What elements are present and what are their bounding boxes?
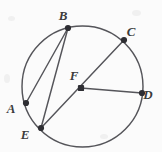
point-label-d: D [142, 87, 153, 102]
vertex-dot-f [78, 85, 84, 91]
point-label-c: C [127, 24, 136, 39]
geometry-diagram: A B C D E F [0, 0, 162, 152]
point-label-f: F [69, 68, 79, 83]
vertex-dot-b [65, 25, 71, 31]
diagram-canvas: A B C D E F [0, 0, 162, 152]
point-label-a: A [6, 101, 16, 116]
vertex-dot-a [23, 100, 29, 106]
radius-fd [81, 88, 142, 93]
chord-ab [26, 28, 68, 103]
vertex-dot-e [38, 125, 44, 131]
point-label-e: E [20, 127, 30, 142]
point-label-b: B [58, 8, 68, 23]
